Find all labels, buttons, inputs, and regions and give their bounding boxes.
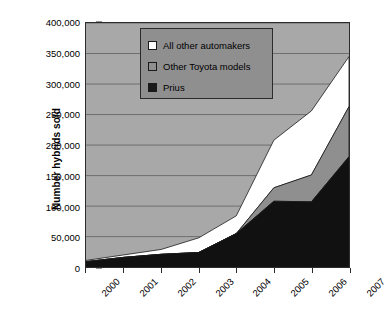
x-tick-label-2007: 2007 bbox=[364, 276, 387, 299]
legend-swatch-prius bbox=[148, 83, 157, 92]
y-tick-label: 400,000 bbox=[20, 17, 80, 28]
x-tick-label-2001: 2001 bbox=[137, 276, 160, 299]
x-tick-label-2004: 2004 bbox=[251, 276, 274, 299]
x-tick-mark bbox=[199, 268, 200, 273]
x-tick-label-2000: 2000 bbox=[99, 276, 122, 299]
legend-item-prius: Prius bbox=[148, 77, 265, 98]
x-tick-label-2002: 2002 bbox=[175, 276, 198, 299]
x-tick-mark bbox=[312, 268, 313, 273]
y-tick-label: 350,000 bbox=[20, 47, 80, 58]
legend-label-all-other-automakers: All other automakers bbox=[163, 40, 250, 51]
x-tick-label-2003: 2003 bbox=[213, 276, 236, 299]
y-tick-label: 250,000 bbox=[20, 109, 80, 120]
x-tick-mark bbox=[161, 268, 162, 273]
y-tick-label: 150,000 bbox=[20, 170, 80, 181]
legend-swatch-all-other-automakers bbox=[148, 41, 157, 50]
legend-label-other-toyota-models: Other Toyota models bbox=[163, 61, 250, 72]
legend-label-prius: Prius bbox=[163, 82, 185, 93]
x-tick-label-2005: 2005 bbox=[288, 276, 311, 299]
x-tick-mark bbox=[274, 268, 275, 273]
y-tick-label: 0 bbox=[20, 263, 80, 274]
x-tick-mark bbox=[123, 268, 124, 273]
legend: All other automakers Other Toyota models… bbox=[140, 28, 273, 99]
y-tick-label: 200,000 bbox=[20, 140, 80, 151]
y-tick-label: 100,000 bbox=[20, 201, 80, 212]
x-tick-mark bbox=[236, 268, 237, 273]
x-tick-mark bbox=[85, 268, 86, 273]
y-axis-tick-labels: 050,000100,000150,000200,000250,000300,0… bbox=[18, 0, 80, 318]
y-tick-label: 50,000 bbox=[20, 232, 80, 243]
legend-swatch-other-toyota-models bbox=[148, 62, 157, 71]
legend-item-all-other-automakers: All other automakers bbox=[148, 35, 265, 56]
plot-area: All other automakers Other Toyota models… bbox=[85, 22, 350, 268]
legend-item-other-toyota-models: Other Toyota models bbox=[148, 56, 265, 77]
x-tick-label-2006: 2006 bbox=[326, 276, 349, 299]
x-tick-mark bbox=[350, 268, 351, 273]
y-tick-label: 300,000 bbox=[20, 78, 80, 89]
